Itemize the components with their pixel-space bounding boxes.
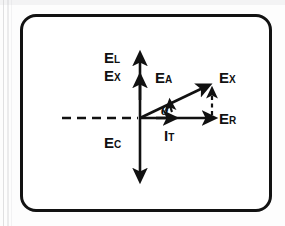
theta-arc [170, 104, 172, 112]
label-i-t: IT [164, 128, 174, 144]
vector-diagram [0, 0, 285, 226]
vector-e-a [140, 87, 205, 118]
label-theta: θ [161, 105, 168, 118]
label-e-x-resultant-sub: X [229, 74, 236, 85]
label-e-r: ER [219, 111, 236, 127]
label-e-a: EA [155, 70, 172, 86]
label-e-a-sub: A [165, 74, 172, 85]
figure-canvas: EL EX EA EX ER IT EC θ [0, 0, 285, 226]
label-e-x-vertical-base: E [104, 67, 114, 84]
label-e-c-sub: C [114, 139, 121, 150]
label-e-a-base: E [155, 69, 165, 86]
label-e-l: EL [104, 50, 120, 66]
label-e-l-base: E [104, 49, 114, 66]
label-i-t-sub: T [168, 132, 174, 143]
label-e-r-base: E [219, 110, 229, 127]
label-e-x-vertical-sub: X [114, 72, 121, 83]
label-e-x-resultant-base: E [219, 69, 229, 86]
label-e-l-sub: L [114, 54, 120, 65]
label-e-c: EC [104, 135, 121, 151]
label-e-r-sub: R [229, 115, 236, 126]
label-e-x-resultant: EX [219, 70, 236, 86]
label-e-c-base: E [104, 134, 114, 151]
label-e-x-vertical: EX [104, 68, 121, 84]
